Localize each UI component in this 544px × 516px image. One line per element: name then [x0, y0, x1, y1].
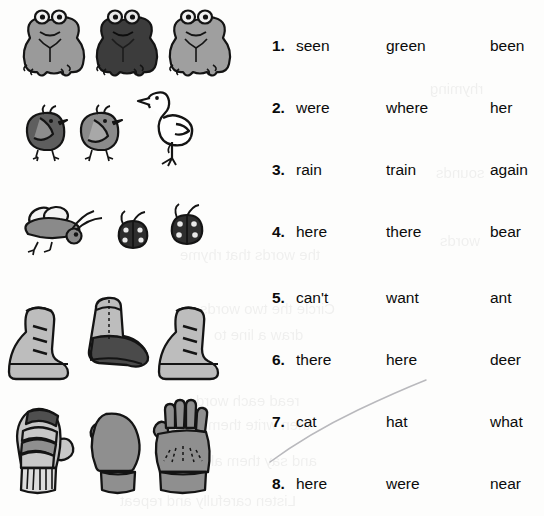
word-cell-3[interactable]: ant: [490, 285, 512, 311]
word-cell-2[interactable]: train: [386, 157, 416, 183]
mitten-plain-center: [91, 414, 140, 493]
word-cell-2[interactable]: hat: [386, 409, 408, 435]
word-row[interactable]: 7. cat hat what: [262, 409, 544, 435]
boot-light-left: [9, 308, 68, 380]
word-cell-1[interactable]: here: [296, 219, 327, 245]
illustration-row-mittens-and-glove: [0, 398, 252, 504]
boot-light-right: [159, 308, 218, 380]
word-cell-2[interactable]: want: [386, 285, 419, 311]
row-number: 1.: [272, 33, 294, 59]
word-row[interactable]: 3. rain train again: [262, 157, 544, 183]
word-list: 1. seen green been 2. were where her 3. …: [262, 0, 544, 516]
illustration-row-chicks-and-duck: [0, 88, 252, 170]
word-row[interactable]: 6. there here deer: [262, 347, 544, 373]
word-cell-2[interactable]: green: [386, 33, 426, 59]
word-cell-2[interactable]: were: [386, 471, 420, 497]
word-cell-3[interactable]: bear: [490, 219, 521, 245]
illustration-row-bug-and-ladybugs: [0, 196, 252, 268]
row-number: 6.: [272, 347, 294, 373]
word-cell-1[interactable]: seen: [296, 33, 330, 59]
word-cell-1[interactable]: cat: [296, 409, 317, 435]
row-number: 8.: [272, 471, 294, 497]
word-row[interactable]: 1. seen green been: [262, 33, 544, 59]
word-cell-1[interactable]: were: [296, 95, 330, 121]
chick-medium-right: [81, 105, 122, 161]
word-cell-3[interactable]: what: [490, 409, 523, 435]
duck-white: [138, 92, 192, 166]
glove-right: [154, 400, 210, 493]
frog-dark-center: [97, 11, 157, 76]
word-cell-3[interactable]: again: [490, 157, 528, 183]
row-number: 5.: [272, 285, 294, 311]
word-cell-3[interactable]: near: [490, 471, 521, 497]
row-number: 4.: [272, 219, 294, 245]
word-row[interactable]: 8. here were near: [262, 471, 544, 497]
fly-bug: [25, 205, 102, 255]
word-row[interactable]: 4. here there bear: [262, 219, 544, 245]
word-cell-1[interactable]: can't: [296, 285, 328, 311]
illustration-column: [0, 0, 252, 516]
word-cell-2[interactable]: there: [386, 219, 421, 245]
word-cell-3[interactable]: been: [490, 33, 524, 59]
row-number: 7.: [272, 409, 294, 435]
word-cell-1[interactable]: there: [296, 347, 331, 373]
ladybug-right: [172, 204, 202, 244]
worksheet-page: the words that rhymeCircle the two words…: [0, 0, 544, 516]
row-number: 3.: [272, 157, 294, 183]
boot-cowboy-dark-center: [89, 298, 148, 367]
row-number: 2.: [272, 95, 294, 121]
word-cell-1[interactable]: rain: [296, 157, 322, 183]
mitten-striped-left: [17, 409, 73, 493]
ladybug-left: [119, 211, 147, 248]
frog-light-right: [170, 11, 230, 76]
illustration-row-boots: [0, 288, 252, 384]
word-cell-3[interactable]: her: [490, 95, 512, 121]
frog-light-left: [24, 11, 84, 76]
word-cell-2[interactable]: here: [386, 347, 417, 373]
word-cell-3[interactable]: deer: [490, 347, 521, 373]
illustration-row-frogs: [0, 2, 252, 82]
word-cell-1[interactable]: here: [296, 471, 327, 497]
word-row[interactable]: 2. were where her: [262, 95, 544, 121]
word-row[interactable]: 5. can't want ant: [262, 285, 544, 311]
word-cell-2[interactable]: where: [386, 95, 428, 121]
chick-dark-left: [27, 105, 67, 161]
